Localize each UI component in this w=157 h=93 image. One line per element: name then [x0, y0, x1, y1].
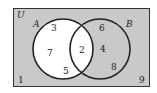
a-only-value-3: 5 [63, 66, 69, 76]
venn-diagram: U A B 3 7 5 2 6 4 8 1 9 [0, 0, 157, 93]
b-only-value-1: 6 [99, 23, 105, 33]
a-only-value-2: 7 [47, 48, 53, 58]
b-only-value-2: 4 [100, 44, 106, 54]
outside-value-1: 1 [18, 75, 24, 85]
set-b-label: B [125, 19, 133, 29]
intersection-value: 2 [79, 45, 85, 55]
set-a-label: A [32, 19, 40, 29]
a-only-value-1: 3 [51, 23, 57, 33]
outside-value-2: 9 [139, 75, 145, 85]
b-only-value-3: 8 [111, 62, 117, 72]
universe-label: U [17, 10, 25, 20]
